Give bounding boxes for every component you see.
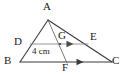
vertex-label-d: D — [14, 36, 22, 47]
parallel-mark-bc-icon — [77, 59, 84, 65]
vertex-label-c: C — [112, 55, 119, 66]
vertex-label-e: E — [90, 31, 97, 42]
vertex-label-a: A — [43, 1, 51, 12]
point-g-dot — [59, 43, 61, 45]
vertex-label-f: F — [62, 62, 68, 73]
vertex-label-b: B — [4, 55, 11, 66]
parallel-mark-de-icon — [67, 41, 74, 47]
vertex-label-g: G — [58, 30, 66, 41]
length-label-dg: 4 cm — [32, 47, 50, 56]
geometry-figure: A B C D E F G 4 cm — [0, 0, 123, 76]
